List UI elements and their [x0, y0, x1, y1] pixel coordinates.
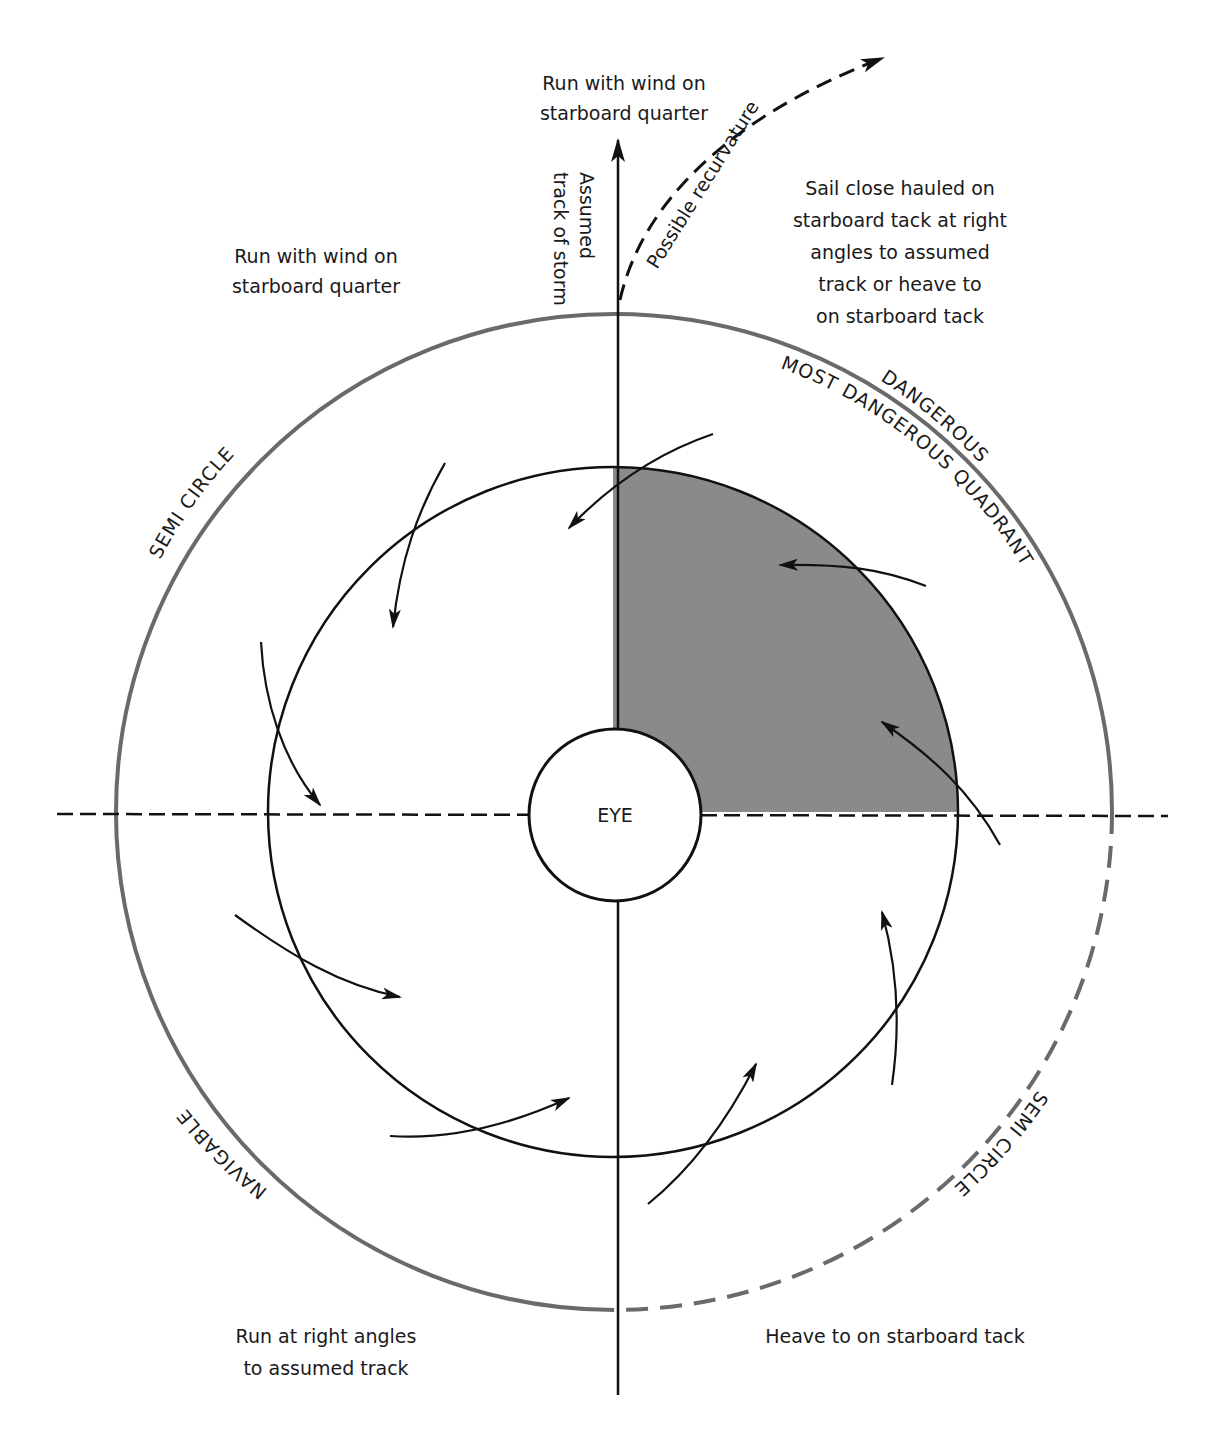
outer-circle-dashed	[614, 812, 1112, 1310]
svg-text:Heave to on starboard tack: Heave to on starboard tack	[765, 1325, 1025, 1347]
svg-text:Run at right angles: Run at right angles	[236, 1325, 417, 1347]
svg-text:angles to assumed: angles to assumed	[810, 241, 990, 263]
svg-text:on starboard tack: on starboard tack	[816, 305, 984, 327]
svg-text:starboard tack at right: starboard tack at right	[793, 209, 1007, 231]
semicircle-label-right-lower: SEMI CIRCLE	[950, 1088, 1053, 1201]
assumed-track-label: Assumed track of storm	[550, 172, 598, 306]
storm-diagram: EYE Assumed track of storm Possible recu…	[0, 0, 1224, 1444]
wind-arrow-icon	[882, 912, 897, 1085]
wind-arrow-icon	[393, 463, 445, 627]
svg-text:track or heave to: track or heave to	[818, 273, 981, 295]
svg-text:starboard quarter: starboard quarter	[232, 275, 400, 297]
wind-arrow-icon	[235, 915, 400, 997]
svg-text:starboard quarter: starboard quarter	[540, 102, 708, 124]
svg-text:Assumed: Assumed	[576, 172, 598, 259]
eye-label: EYE	[597, 804, 633, 826]
svg-text:Run with wind on: Run with wind on	[234, 245, 397, 267]
instruction-bottom-right: Heave to on starboard tack	[765, 1325, 1025, 1347]
svg-text:track of storm: track of storm	[550, 172, 572, 306]
instruction-top-left: Run with wind on starboard quarter	[232, 245, 400, 297]
svg-text:Sail close hauled on: Sail close hauled on	[805, 177, 995, 199]
instruction-top-right: Sail close hauled on starboard tack at r…	[793, 177, 1007, 327]
svg-text:Run with wind on: Run with wind on	[542, 72, 705, 94]
instruction-bottom-left: Run at right angles to assumed track	[236, 1325, 417, 1379]
svg-text:to assumed track: to assumed track	[243, 1357, 408, 1379]
instruction-top-center: Run with wind on starboard quarter	[540, 72, 708, 124]
